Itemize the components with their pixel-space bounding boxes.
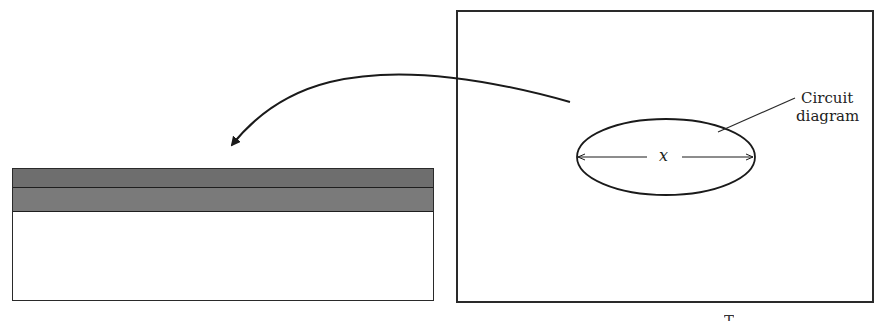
wafer-cross-section bbox=[12, 168, 434, 301]
callout-label-line2: diagram bbox=[796, 107, 859, 125]
top-layer bbox=[13, 169, 433, 188]
second-layer bbox=[13, 188, 433, 212]
caption-partial: T bbox=[724, 312, 734, 321]
callout-label-line1: Circuit bbox=[801, 89, 853, 107]
dimension-label: x bbox=[659, 147, 668, 165]
